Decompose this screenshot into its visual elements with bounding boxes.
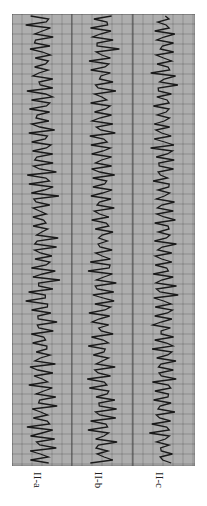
strip-b bbox=[72, 14, 133, 466]
recording-strips bbox=[12, 14, 195, 466]
strip-c bbox=[133, 14, 195, 466]
strip-label-b: II-b bbox=[93, 472, 105, 489]
strip-label-a: II-a bbox=[32, 472, 44, 488]
strip-label-c: II-c bbox=[154, 472, 166, 488]
strip-a bbox=[12, 14, 72, 466]
strips-canvas bbox=[12, 14, 195, 466]
